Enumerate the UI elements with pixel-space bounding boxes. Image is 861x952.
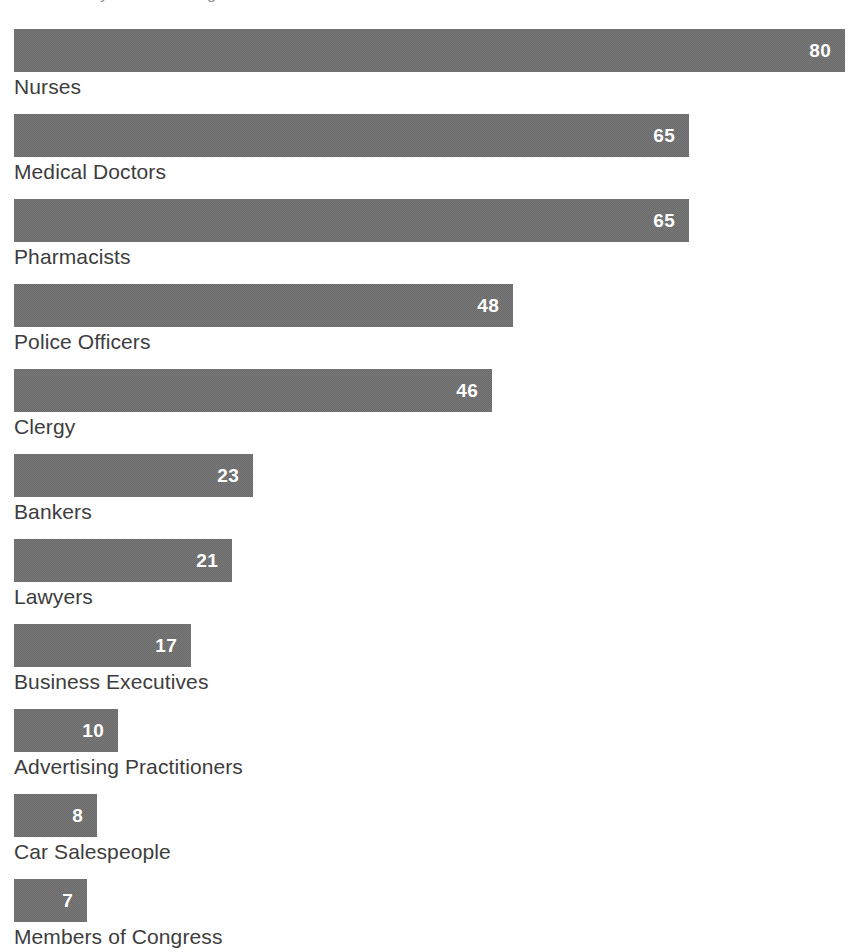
bar-value-label: 8 xyxy=(72,806,83,825)
bar-row: 10Advertising Practitioners xyxy=(0,709,861,794)
bar-category-label: Members of Congress xyxy=(14,925,222,949)
bar-value-label: 17 xyxy=(155,636,177,655)
bar-row: 65Medical Doctors xyxy=(0,114,861,199)
bar-value-label: 80 xyxy=(809,41,831,60)
bar[interactable]: 46 xyxy=(14,369,492,412)
bar-value-label: 65 xyxy=(653,126,675,145)
bar-row: 48Police Officers xyxy=(0,284,861,369)
bar-value-label: 46 xyxy=(456,381,478,400)
bar[interactable]: 65 xyxy=(14,199,689,242)
bar-category-label: Pharmacists xyxy=(14,245,131,269)
bar[interactable]: 21 xyxy=(14,539,232,582)
bar-value-label: 48 xyxy=(477,296,499,315)
bar-row: 8Car Salespeople xyxy=(0,794,861,879)
bar-category-label: Advertising Practitioners xyxy=(14,755,243,779)
bar[interactable]: 80 xyxy=(14,29,845,72)
bar-category-label: Police Officers xyxy=(14,330,151,354)
chart-title-strip: Honesty/Ethics Ratings xyxy=(0,0,861,12)
bar[interactable]: 10 xyxy=(14,709,118,752)
bar-category-label: Nurses xyxy=(14,75,81,99)
bar-value-label: 21 xyxy=(196,551,218,570)
bar-row: 23Bankers xyxy=(0,454,861,539)
bar-row: 65Pharmacists xyxy=(0,199,861,284)
bar-value-label: 23 xyxy=(217,466,239,485)
bar-category-label: Car Salespeople xyxy=(14,840,171,864)
bar-value-label: 65 xyxy=(653,211,675,230)
bar[interactable]: 23 xyxy=(14,454,253,497)
bar[interactable]: 48 xyxy=(14,284,513,327)
bar-row: 80Nurses xyxy=(0,29,861,114)
bar-list: 80Nurses65Medical Doctors65Pharmacists48… xyxy=(0,29,861,952)
bar-category-label: Medical Doctors xyxy=(14,160,166,184)
bar-row: 21Lawyers xyxy=(0,539,861,624)
bar[interactable]: 8 xyxy=(14,794,97,837)
chart-title: Honesty/Ethics Ratings xyxy=(45,0,225,4)
bar-category-label: Bankers xyxy=(14,500,92,524)
bar[interactable]: 7 xyxy=(14,879,87,922)
bar-category-label: Business Executives xyxy=(14,670,209,694)
bar-category-label: Lawyers xyxy=(14,585,93,609)
bar[interactable]: 65 xyxy=(14,114,689,157)
bar-category-label: Clergy xyxy=(14,415,75,439)
bar[interactable]: 17 xyxy=(14,624,191,667)
bar-row: 7Members of Congress xyxy=(0,879,861,952)
bar-value-label: 7 xyxy=(62,891,73,910)
bar-row: 46Clergy xyxy=(0,369,861,454)
bar-row: 17Business Executives xyxy=(0,624,861,709)
bar-value-label: 10 xyxy=(82,721,104,740)
